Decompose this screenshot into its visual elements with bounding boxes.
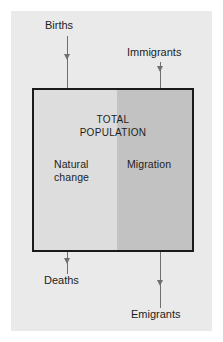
total-population-label: TOTAL POPULATION bbox=[34, 114, 192, 139]
immigrants-arrow-head bbox=[157, 66, 163, 72]
emigrants-arrow-head bbox=[157, 280, 163, 286]
migration-label: Migration bbox=[127, 158, 171, 171]
births-arrow-line bbox=[67, 36, 68, 88]
total-population-box: TOTAL POPULATION Natural change Migratio… bbox=[32, 88, 194, 252]
natural-change-label: Natural change bbox=[54, 158, 89, 183]
deaths-label: Deaths bbox=[44, 274, 79, 287]
population-diagram: Births Immigrants TOTAL POPULATION Natur… bbox=[0, 0, 223, 342]
emigrants-label: Emigrants bbox=[131, 308, 181, 321]
births-arrow-head bbox=[64, 54, 70, 60]
births-label: Births bbox=[45, 19, 73, 32]
deaths-arrow-head bbox=[64, 258, 70, 264]
immigrants-label: Immigrants bbox=[127, 46, 181, 59]
